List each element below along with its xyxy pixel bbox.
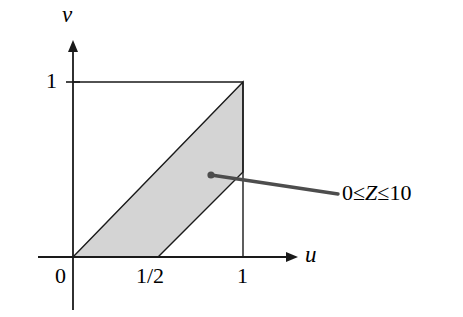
- x-tick-label-half: 1/2: [136, 263, 164, 289]
- annotation-trail: ≤10: [377, 180, 411, 205]
- shaded-region: [73, 82, 243, 257]
- x-tick-label-1: 1: [237, 263, 248, 289]
- y-tick-label-1: 1: [46, 68, 57, 94]
- up-arrow-icon: [68, 40, 78, 52]
- leader-dot: [207, 171, 214, 178]
- u-axis-label: u: [305, 242, 317, 268]
- region-diagram: [0, 0, 463, 317]
- annotation-variable: Z: [365, 180, 377, 205]
- x-tick-label-0: 0: [55, 263, 66, 289]
- region-annotation-label: 0≤Z≤10: [342, 180, 411, 206]
- right-arrow-icon: [286, 252, 298, 262]
- annotation-lead: 0≤: [342, 180, 365, 205]
- figure-root: v u 1 0 1/2 1 0≤Z≤10: [0, 0, 463, 317]
- v-axis-label: v: [62, 2, 72, 28]
